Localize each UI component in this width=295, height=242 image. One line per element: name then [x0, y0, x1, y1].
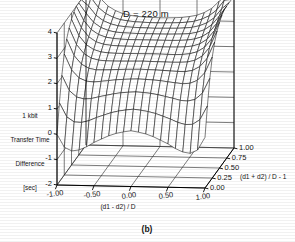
z-tick-label-4: 4 — [48, 28, 52, 36]
x-tick-label-4: 1.00 — [195, 192, 211, 202]
z-tick-label-0: 0 — [48, 129, 52, 137]
y-tick-label-4: 1.00 — [239, 144, 254, 152]
z-tick-label-3: 3 — [48, 53, 52, 61]
y-tick-label-2: 0.50 — [225, 164, 240, 172]
y-axis-title: (d1 + d2) / D - 1 — [240, 173, 286, 180]
y-tick-label-0: 0.00 — [210, 184, 225, 192]
x-tick-label-2: 0.00 — [121, 191, 137, 201]
z-tick-label--2: -2 — [45, 180, 52, 188]
z-tick-label-1: 1 — [48, 104, 52, 112]
z-axis-title-line-1: 1 kbit — [4, 112, 56, 120]
plot-title: D = 220 m — [123, 9, 169, 20]
surface-plot-figure: D = 220 m 1 kbit Transfer Time Differenc… — [0, 0, 295, 242]
z-tick-label--1: -1 — [45, 154, 52, 162]
x-axis-title: (d1 - d2) / D — [100, 203, 135, 210]
x-tick-label-1: -0.50 — [83, 190, 101, 200]
subfigure-label: (b) — [142, 225, 153, 235]
y-tick-label-1: 0.25 — [217, 174, 232, 182]
z-tick-label-2: 2 — [48, 78, 52, 86]
y-tick-label-3: 0.75 — [232, 154, 247, 162]
